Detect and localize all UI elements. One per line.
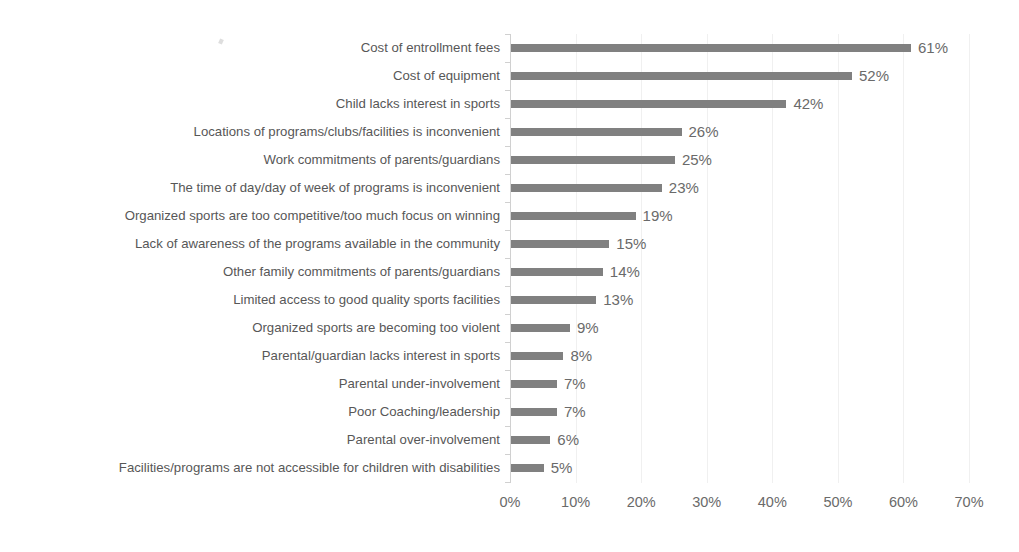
bar [511, 156, 675, 164]
x-axis-tick-label: 60% [889, 494, 918, 510]
bar-row: Child lacks interest in sports42% [0, 90, 1019, 118]
category-tick-mark [505, 202, 510, 203]
category-tick-mark [505, 370, 510, 371]
category-label: Parental over-involvement [0, 426, 500, 454]
category-label: Parental under-involvement [0, 370, 500, 398]
category-label: Limited access to good quality sports fa… [0, 286, 500, 314]
category-tick-mark [505, 174, 510, 175]
category-tick-mark [505, 426, 510, 427]
bar-value-label: 6% [557, 426, 579, 454]
category-tick-mark [505, 62, 510, 63]
bar-value-label: 19% [643, 202, 673, 230]
x-axis-tick-label: 30% [692, 494, 721, 510]
bar [511, 436, 550, 444]
category-tick-mark [505, 258, 510, 259]
bar-row: Locations of programs/clubs/facilities i… [0, 118, 1019, 146]
bar-row: Facilities/programs are not accessible f… [0, 454, 1019, 482]
bar-value-label: 9% [577, 314, 599, 342]
bar [511, 408, 557, 416]
category-label: Lack of awareness of the programs availa… [0, 230, 500, 258]
category-label: Other family commitments of parents/guar… [0, 258, 500, 286]
category-tick-mark [505, 34, 510, 35]
bar [511, 184, 662, 192]
category-label: Organized sports are becoming too violen… [0, 314, 500, 342]
category-tick-mark [505, 146, 510, 147]
category-tick-mark [505, 90, 510, 91]
x-axis-tick-label: 20% [627, 494, 656, 510]
bar-row: Lack of awareness of the programs availa… [0, 230, 1019, 258]
bar-row: Other family commitments of parents/guar… [0, 258, 1019, 286]
bar-value-label: 26% [689, 118, 719, 146]
bar [511, 212, 636, 220]
category-tick-mark [505, 454, 510, 455]
x-axis-tick-label: 0% [500, 494, 521, 510]
category-tick-mark [505, 286, 510, 287]
bar-row: Parental under-involvement7% [0, 370, 1019, 398]
bar-value-label: 52% [859, 62, 889, 90]
bar [511, 380, 557, 388]
bar [511, 100, 786, 108]
category-label: Work commitments of parents/guardians [0, 146, 500, 174]
bar-row: Organized sports are becoming too violen… [0, 314, 1019, 342]
bar-value-label: 13% [603, 286, 633, 314]
x-axis-tick-label: 40% [758, 494, 787, 510]
bar-value-label: 23% [669, 174, 699, 202]
bar-chart: Cost of entrollment fees61%Cost of equip… [0, 0, 1019, 552]
x-axis-tick-label: 70% [955, 494, 984, 510]
category-label: The time of day/day of week of programs … [0, 174, 500, 202]
bar [511, 268, 603, 276]
bar-value-label: 5% [551, 454, 573, 482]
category-tick-mark [505, 482, 510, 483]
x-axis-tick-label: 50% [823, 494, 852, 510]
bar-row: The time of day/day of week of programs … [0, 174, 1019, 202]
category-label: Locations of programs/clubs/facilities i… [0, 118, 500, 146]
category-label: Cost of equipment [0, 62, 500, 90]
bar-value-label: 61% [918, 34, 948, 62]
bar-row: Parental over-involvement6% [0, 426, 1019, 454]
bar-row: Work commitments of parents/guardians25% [0, 146, 1019, 174]
bar [511, 296, 596, 304]
category-tick-mark [505, 314, 510, 315]
x-axis-tick-label: 10% [561, 494, 590, 510]
bar-value-label: 15% [616, 230, 646, 258]
category-label: Organized sports are too competitive/too… [0, 202, 500, 230]
category-label: Poor Coaching/leadership [0, 398, 500, 426]
bar-value-label: 42% [793, 90, 823, 118]
bar-row: Parental/guardian lacks interest in spor… [0, 342, 1019, 370]
bar-value-label: 25% [682, 146, 712, 174]
category-label: Parental/guardian lacks interest in spor… [0, 342, 500, 370]
bar [511, 324, 570, 332]
bar-value-label: 7% [564, 398, 586, 426]
bar [511, 44, 911, 52]
category-tick-mark [505, 230, 510, 231]
bar-row: Cost of equipment52% [0, 62, 1019, 90]
category-tick-mark [505, 118, 510, 119]
bar-value-label: 14% [610, 258, 640, 286]
bar-row: Poor Coaching/leadership7% [0, 398, 1019, 426]
bar-row: Cost of entrollment fees61% [0, 34, 1019, 62]
bar-row: Organized sports are too competitive/too… [0, 202, 1019, 230]
category-label: Child lacks interest in sports [0, 90, 500, 118]
category-label: Facilities/programs are not accessible f… [0, 454, 500, 482]
bar [511, 128, 682, 136]
bar [511, 464, 544, 472]
category-tick-mark [505, 342, 510, 343]
bar [511, 240, 609, 248]
bar-value-label: 8% [570, 342, 592, 370]
category-tick-mark [505, 398, 510, 399]
bar-value-label: 7% [564, 370, 586, 398]
bar [511, 72, 852, 80]
category-label: Cost of entrollment fees [0, 34, 500, 62]
bar-row: Limited access to good quality sports fa… [0, 286, 1019, 314]
bar [511, 352, 563, 360]
